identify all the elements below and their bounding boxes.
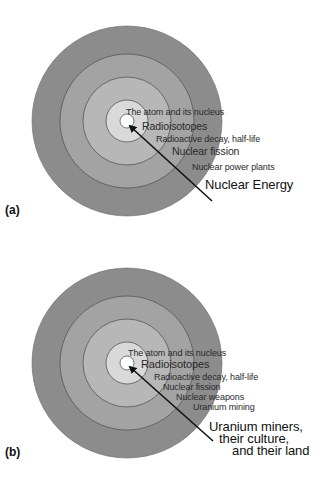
label-radioisotopes: Radioisotopes bbox=[142, 121, 207, 132]
label-nuclear-fission: Nuclear fission bbox=[163, 382, 221, 392]
label-radioactive-decay: Radioactive decay, half-life bbox=[154, 372, 258, 382]
label-atom-nucleus: The atom and its nucleus bbox=[126, 107, 224, 117]
panel-tag-a: (a) bbox=[5, 203, 20, 217]
label-atom-nucleus: The atom and its nucleus bbox=[128, 348, 226, 358]
panel-tag-b: (b) bbox=[5, 445, 20, 459]
label-nuclear-power-plants: Nuclear power plants bbox=[192, 162, 275, 172]
label-uranium-mining: Uranium mining bbox=[193, 402, 255, 412]
label-radioactive-decay: Radioactive decay, half-life bbox=[156, 134, 260, 144]
label-their-land: and their land bbox=[232, 444, 309, 457]
panel-b: The atom and its nucleus Radioisotopes R… bbox=[0, 242, 321, 485]
label-nuclear-energy: Nuclear Energy bbox=[205, 178, 293, 191]
label-nuclear-fission: Nuclear fission bbox=[172, 146, 239, 157]
label-nuclear-weapons: Nuclear weapons bbox=[176, 392, 244, 402]
panel-a: The atom and its nucleus Radioisotopes R… bbox=[0, 0, 321, 242]
label-radioisotopes: Radioisotopes bbox=[141, 359, 209, 370]
